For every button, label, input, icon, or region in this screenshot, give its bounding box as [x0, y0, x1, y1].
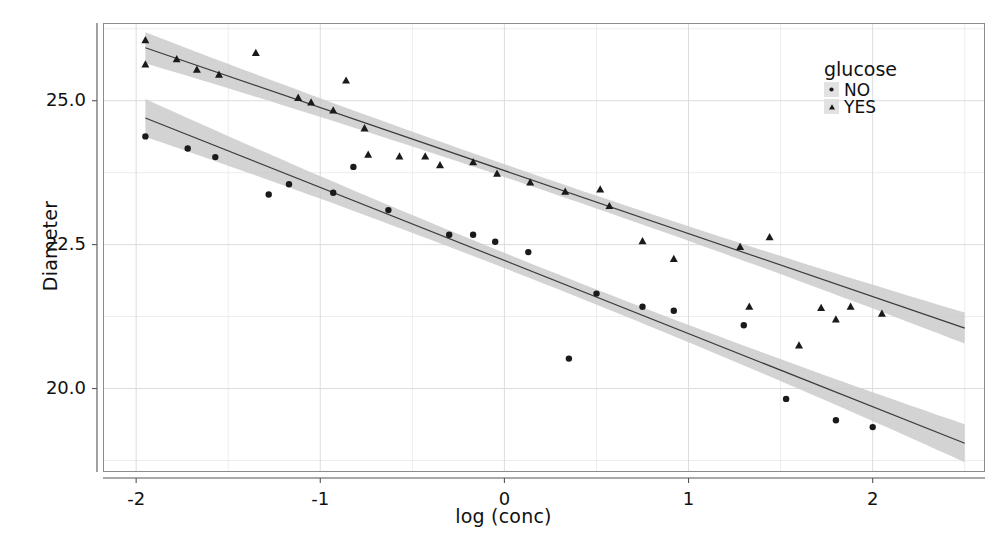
- y-tick-label: 22.5: [16, 233, 86, 254]
- data-point-circle: [142, 133, 148, 139]
- data-point-circle: [185, 145, 191, 151]
- data-point-circle: [212, 154, 218, 160]
- y-tick-label: 20.0: [16, 377, 86, 398]
- y-tick-label: 25.0: [16, 89, 86, 110]
- data-point-circle: [492, 239, 498, 245]
- x-tick-label: -1: [290, 488, 350, 509]
- data-point-circle: [870, 424, 876, 430]
- data-point-circle: [833, 417, 839, 423]
- data-point-circle: [783, 396, 789, 402]
- legend-title: glucose: [824, 58, 897, 80]
- data-point-circle: [639, 304, 645, 310]
- triangle-marker-icon: [824, 99, 839, 114]
- x-tick-label: -2: [106, 488, 166, 509]
- data-point-circle: [741, 322, 747, 328]
- data-point-circle: [593, 290, 599, 296]
- data-point-circle: [446, 232, 452, 238]
- circle-marker-icon: [824, 82, 839, 97]
- scatter-plot-figure: log (conc) Diameter glucose NO YES -2-10…: [0, 0, 1007, 553]
- data-point-circle: [671, 308, 677, 314]
- legend-item-yes: YES: [824, 98, 897, 115]
- data-point-circle: [525, 249, 531, 255]
- data-point-circle: [566, 355, 572, 361]
- x-tick-label: 1: [659, 488, 719, 509]
- data-point-circle: [470, 232, 476, 238]
- legend-label-yes: YES: [844, 97, 876, 117]
- data-point-circle: [350, 164, 356, 170]
- data-point-circle: [286, 181, 292, 187]
- legend: glucose NO YES: [824, 58, 897, 115]
- x-tick-label: 0: [474, 488, 534, 509]
- data-point-circle: [266, 191, 272, 197]
- x-tick-label: 2: [843, 488, 903, 509]
- legend-item-no: NO: [824, 81, 897, 98]
- data-point-circle: [385, 207, 391, 213]
- data-point-circle: [330, 190, 336, 196]
